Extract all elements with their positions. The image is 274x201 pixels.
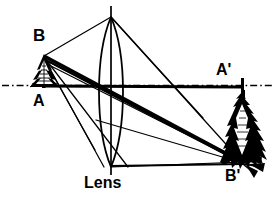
label-image-top-b-prime: B' bbox=[225, 168, 240, 184]
lens-ray-diagram: B A A' B' Lens bbox=[0, 0, 274, 201]
ray-bundle-thin bbox=[44, 17, 243, 167]
label-object-base-a: A bbox=[33, 93, 45, 109]
ray-b-to-bprime-thick bbox=[44, 56, 244, 163]
ray-b-to-lens-top bbox=[44, 17, 111, 56]
ray-lensbottom-horizontal bbox=[110, 164, 243, 166]
label-object-top-b: B bbox=[33, 27, 45, 44]
ray-b-lower-1 bbox=[44, 57, 128, 167]
ray-a-to-aprime bbox=[43, 86, 243, 87]
label-image-base-a-prime: A' bbox=[216, 62, 231, 78]
label-lens-caption: Lens bbox=[84, 175, 121, 191]
